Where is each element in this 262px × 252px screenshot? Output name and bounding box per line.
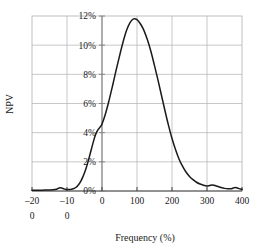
x-tick-label-wrap: 0 — [65, 211, 70, 221]
x-tick-label: 100 — [130, 196, 145, 206]
x-axis-ticks: –200–1000100200300400 — [24, 187, 250, 221]
y-axis-title: NPV — [4, 93, 15, 114]
x-tick-label: 200 — [165, 196, 180, 206]
x-tick-label: 300 — [200, 196, 215, 206]
grid-lines — [32, 16, 242, 191]
y-tick-label: 8% — [83, 70, 96, 80]
y-axis-ticks: 0%2%4%6%8%10%12% — [79, 11, 105, 196]
y-tick-label: 10% — [79, 41, 97, 51]
npv-frequency-chart: 0%2%4%6%8%10%12%–200–1000100200300400NPV… — [0, 0, 262, 252]
x-tick-label: –20 — [24, 196, 40, 206]
x-tick-label: 400 — [235, 196, 250, 206]
y-tick-label: 6% — [83, 99, 96, 109]
chart-container: 0%2%4%6%8%10%12%–200–1000100200300400NPV… — [0, 0, 262, 252]
x-tick-label: 0 — [100, 196, 105, 206]
y-tick-label: 0% — [83, 186, 96, 196]
y-tick-label: 12% — [79, 11, 97, 21]
x-axis-title: Frequency (%) — [115, 232, 175, 244]
x-tick-label-wrap: 0 — [30, 211, 35, 221]
x-tick-label: –10 — [59, 196, 75, 206]
y-tick-label: 2% — [83, 157, 96, 167]
